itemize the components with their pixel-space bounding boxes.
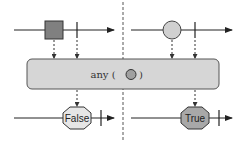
left-output-timeline: False xyxy=(14,107,114,129)
left-input-timeline xyxy=(14,21,114,39)
input-arrows xyxy=(54,40,195,58)
square-marble-icon xyxy=(45,21,63,39)
circle-marble-icon xyxy=(163,21,181,39)
predicate-circle-icon xyxy=(126,70,136,80)
operator-label-suffix: ) xyxy=(139,69,143,80)
right-input-timeline xyxy=(131,21,232,39)
marble-diagram: any ( ) False True xyxy=(0,0,247,143)
right-output-timeline: True xyxy=(131,107,232,129)
true-label: True xyxy=(185,113,206,124)
output-arrows xyxy=(77,90,195,106)
operator-label-prefix: any ( xyxy=(90,69,115,80)
operator-box: any ( ) xyxy=(27,59,219,89)
false-label: False xyxy=(65,113,90,124)
